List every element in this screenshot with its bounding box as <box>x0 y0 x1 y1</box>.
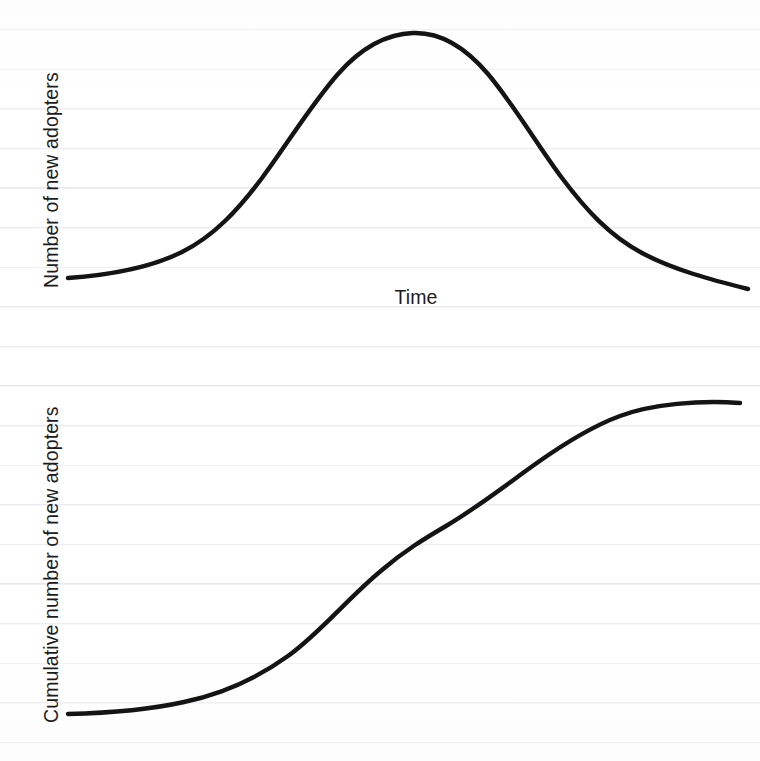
y-axis-label-incidence: Number of new adopters <box>40 72 63 288</box>
incidence-curve-plot <box>0 0 760 320</box>
chart-panel-cumulative: Cumulative number of new adopters Time <box>0 350 760 761</box>
bell-curve-path <box>68 33 748 289</box>
y-axis-label-cumulative: Cumulative number of new adopters <box>40 406 63 723</box>
chart-panel-incidence: Number of new adopters Time <box>0 0 760 320</box>
x-axis-label-incidence: Time <box>316 286 516 309</box>
s-curve-path <box>68 402 740 714</box>
cumulative-curve-plot <box>0 350 760 761</box>
